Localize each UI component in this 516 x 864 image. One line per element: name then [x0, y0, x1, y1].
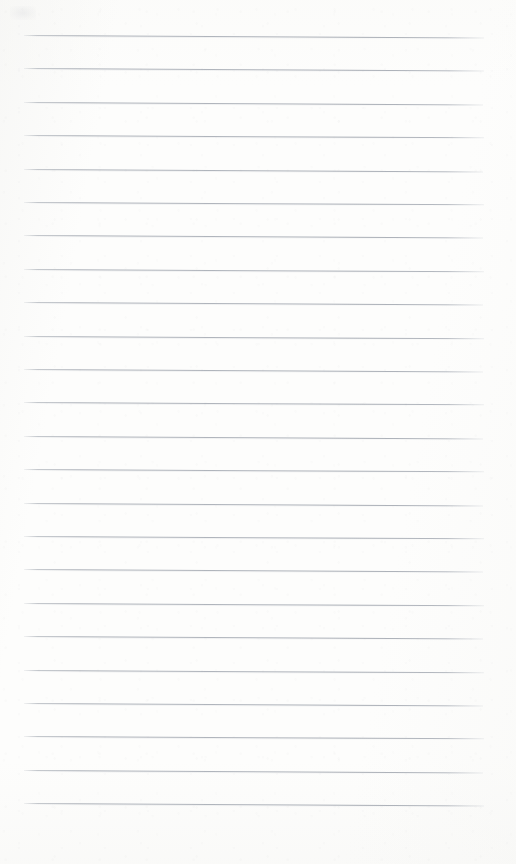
rule-line: [24, 269, 484, 272]
rule-line: [24, 569, 483, 572]
rule-line: [24, 703, 483, 706]
rule-line: [24, 503, 483, 506]
rule-line: [24, 736, 484, 739]
rule-line: [24, 469, 484, 472]
rule-line: [24, 68, 484, 71]
rule-line: [24, 102, 483, 105]
rule-line: [24, 302, 483, 305]
rule-line: [24, 436, 483, 439]
rule-line: [24, 636, 483, 639]
rule-line: [24, 235, 483, 238]
rule-line: [24, 336, 484, 339]
rule-line: [24, 803, 484, 806]
rule-line: [24, 402, 484, 405]
rule-line: [24, 202, 484, 205]
ruled-lines-layer: [0, 0, 516, 864]
rule-line: [24, 603, 484, 606]
rule-line: [24, 135, 484, 138]
rule-line: [24, 770, 483, 773]
rule-line: [24, 169, 483, 172]
scanned-notebook-page: [0, 0, 516, 864]
rule-line: [24, 35, 484, 38]
rule-line: [24, 670, 484, 673]
rule-line: [24, 369, 483, 372]
rule-line: [24, 536, 484, 539]
